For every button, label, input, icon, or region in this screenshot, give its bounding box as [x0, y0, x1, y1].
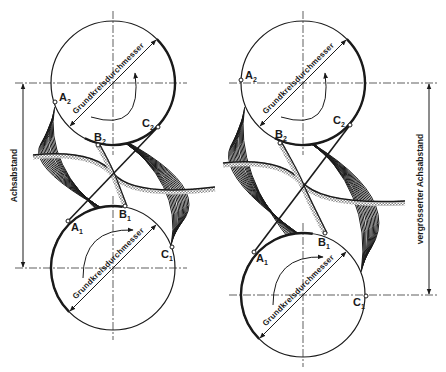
center-distance-label: Achsabstand: [9, 149, 19, 202]
contact-point-marker: [239, 78, 243, 82]
contact-point-marker: [156, 125, 160, 129]
contact-point-marker: [170, 245, 174, 249]
contact-point-marker: [96, 143, 100, 147]
contact-point-marker: [364, 294, 368, 298]
contact-point-marker: [66, 219, 70, 223]
contact-point-marker: [278, 141, 282, 145]
figure-canvas: GrundkreisdurchmesserGrundkreisdurchmess…: [0, 0, 446, 372]
contact-point-marker: [323, 231, 327, 235]
contact-point-marker: [348, 123, 352, 127]
contact-point-marker: [53, 100, 57, 104]
gear-mesh-figure: GrundkreisdurchmesserGrundkreisdurchmess…: [0, 0, 446, 372]
enlarged-center-distance-label: vergrösserter Achsabstand: [415, 134, 425, 244]
